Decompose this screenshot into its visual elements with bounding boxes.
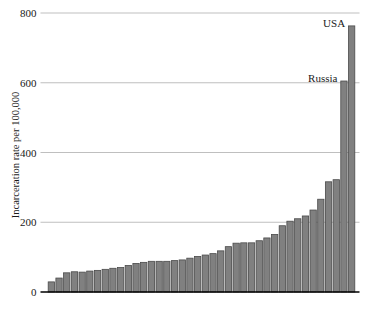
bar [79,272,85,292]
incarceration-rate-bar-chart: 0200400600800 RussiaUSA Incarceration ra… [0,0,376,311]
bar [71,272,77,292]
bar [241,243,247,292]
chart-figure: 0200400600800 RussiaUSA Incarceration ra… [0,0,376,311]
bar [233,243,239,292]
bar [125,266,131,293]
y-axis-tick-label: 0 [31,286,37,298]
bar [94,270,100,292]
bar [248,243,254,292]
bar [187,258,193,292]
bar [318,199,324,292]
bar [179,260,185,292]
bar [64,273,70,292]
bar [256,241,262,292]
y-axis-tick-label: 400 [20,147,37,159]
bar [218,251,224,292]
bar [156,261,162,292]
bar [48,282,54,292]
bar [341,81,347,292]
bar [171,261,177,292]
bar [310,210,316,292]
bar [110,268,116,292]
bar [133,263,139,292]
bar [210,254,216,292]
bar [279,226,285,292]
y-axis-tick-label: 600 [20,77,37,89]
y-axis-tick-label: 200 [20,216,37,228]
bar [225,247,231,292]
bar [194,256,200,292]
bar [56,278,62,292]
y-axis-tick-label: 800 [20,7,37,19]
bar-annotation-usa: USA [323,17,345,29]
bar [141,262,147,292]
bar [271,234,277,292]
bar-annotation-russia: Russia [308,72,337,84]
bar [348,26,354,292]
bar [117,268,123,292]
y-axis-title: Incarceration rate per 100,000 [10,92,21,219]
bar [164,261,170,292]
bar [102,269,108,292]
bar [264,238,270,292]
bar [295,219,301,292]
bar [325,182,331,292]
bar [287,221,293,292]
bar [148,261,154,292]
bar [333,180,339,292]
bar [87,271,93,292]
bar [202,255,208,292]
bar [302,216,308,292]
